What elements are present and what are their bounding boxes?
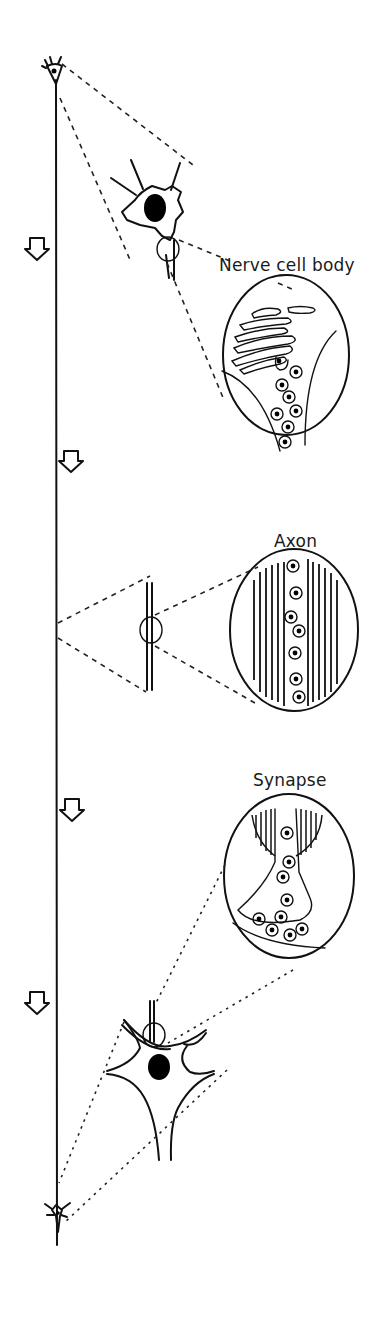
- axon-segment: [140, 583, 162, 690]
- label-axon: Axon: [274, 531, 317, 551]
- vesicles-axon: [285, 560, 305, 703]
- neuron-diagram: Nerve cell body Axon Synapse: [0, 0, 381, 1340]
- diagram-canvas: [0, 0, 381, 1340]
- main-axon-line: [56, 80, 57, 1245]
- zoom-lines-bottom: [59, 1022, 227, 1223]
- axon-inset: [230, 549, 358, 711]
- transport-arrow-2: [59, 451, 83, 472]
- zoom-lines-axon: [58, 567, 258, 703]
- label-nerve-cell-body: Nerve cell body: [219, 255, 355, 275]
- top-small-neuron-icon: [42, 57, 62, 84]
- zoom-lines-synapse: [155, 865, 293, 1043]
- cell-body-inset: [222, 275, 349, 451]
- enlarged-cell-body: [111, 160, 183, 280]
- transport-arrow-3: [60, 799, 84, 821]
- transport-arrow-1: [25, 238, 49, 260]
- synapse-inset: [224, 794, 354, 958]
- target-neuron: [107, 1001, 214, 1160]
- neurotubules: [254, 559, 337, 706]
- label-synapse: Synapse: [253, 770, 327, 790]
- transport-arrow-4: [25, 992, 49, 1014]
